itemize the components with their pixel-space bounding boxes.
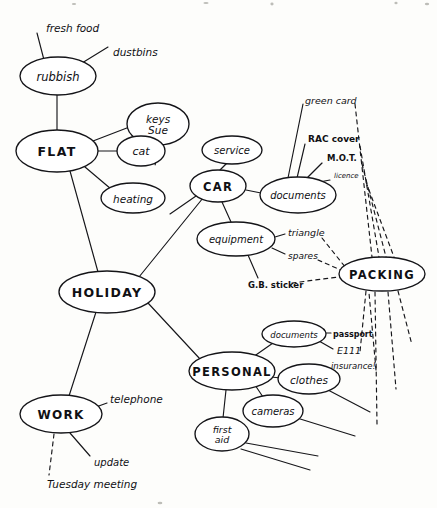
cardocs-to-green-card (288, 104, 303, 178)
node-label-holiday: HOLIDAY (72, 285, 143, 300)
leaf-label-spares[interactable]: spares (288, 251, 318, 261)
node-label-car-documents: documents (270, 190, 326, 201)
mindmap-canvas: HOLIDAYFLATrubbishkeysSuecatheatingCARse… (0, 0, 437, 508)
rubbish-to-dustbins (82, 47, 108, 63)
leaf-label-e111[interactable]: E111 (337, 345, 361, 356)
car-to-service (220, 164, 226, 170)
persdocs-to-e111 (319, 341, 333, 349)
node-first-aid[interactable]: firstaid (195, 417, 249, 451)
node-flat[interactable]: FLAT (16, 130, 98, 172)
node-label-cat: cat (132, 145, 150, 158)
node-work[interactable]: WORK (20, 395, 102, 433)
car-to-car-documents (246, 190, 261, 193)
node-label-flat: FLAT (38, 144, 77, 159)
node-label-keys-sue-line1: keys (146, 113, 171, 125)
cardocs-to-mot (306, 163, 322, 179)
rubbish-to-fresh-food (37, 33, 44, 60)
node-packing[interactable]: PACKING (339, 257, 425, 291)
node-label-keys-sue-line2: Sue (148, 124, 168, 136)
cameras-to-blank-1 (297, 418, 355, 436)
rac-cover-to-packing (360, 146, 379, 257)
mindmap-svg: HOLIDAYFLATrubbishkeysSuecatheatingCARse… (0, 0, 437, 508)
node-label-heating: heating (113, 193, 153, 205)
equipment-to-gb-sticker (248, 255, 258, 278)
node-car[interactable]: CAR (190, 170, 246, 202)
leaf-label-licence[interactable]: licence (334, 172, 359, 180)
leaf-label-update[interactable]: update (94, 457, 129, 468)
packing-down-4 (398, 291, 412, 345)
spares-to-packing (318, 260, 343, 271)
node-equipment[interactable]: equipment (197, 222, 275, 256)
node-personal[interactable]: PERSONAL (189, 352, 275, 390)
nodes-group: HOLIDAYFLATrubbishkeysSuecatheatingCARse… (16, 57, 425, 451)
holiday-to-work (69, 312, 96, 396)
leaf-label-fresh-food[interactable]: fresh food (46, 22, 99, 34)
node-label-cameras: cameras (252, 406, 295, 417)
leaf-label-mot[interactable]: M.O.T. (327, 153, 357, 163)
node-label-first-aid-line2: aid (215, 434, 230, 445)
packing-down-3 (388, 292, 396, 389)
node-label-service: service (214, 145, 250, 156)
green-card-to-packing (355, 104, 372, 257)
work-to-tuesday-meeting (49, 434, 54, 475)
flat-to-holiday (70, 171, 98, 272)
holiday-to-personal (148, 303, 200, 359)
node-label-packing: PACKING (349, 268, 415, 282)
node-cameras[interactable]: cameras (243, 395, 303, 427)
leaf-label-gb-sticker[interactable]: G.B. sticker (248, 280, 304, 290)
node-car-documents[interactable]: documents (260, 177, 336, 213)
packing-down-1 (360, 291, 366, 352)
node-pers-documents[interactable]: documents (262, 321, 326, 347)
work-to-update (70, 433, 90, 456)
node-label-clothes: clothes (290, 374, 328, 386)
flat-to-heating (85, 167, 111, 189)
equipment-to-triangle (275, 234, 285, 237)
node-holiday[interactable]: HOLIDAY (59, 271, 155, 313)
leaf-label-green-card[interactable]: green card (305, 95, 358, 106)
leaf-label-triangle[interactable]: triangle (288, 227, 325, 238)
leaf-label-tuesday-meeting[interactable]: Tuesday meeting (47, 478, 137, 490)
car-to-equipment (222, 202, 231, 222)
clothes-to-blank-1 (328, 390, 370, 412)
licence-to-packing (366, 182, 394, 257)
leaf-label-insurance[interactable]: insurance! (331, 361, 376, 371)
equipment-to-spares (272, 248, 285, 254)
node-label-car: CAR (203, 180, 233, 194)
node-label-personal: PERSONAL (192, 365, 271, 379)
node-label-rubbish: rubbish (36, 70, 79, 84)
leaf-label-passport[interactable]: passport (333, 330, 373, 339)
node-cat[interactable]: cat (117, 136, 165, 166)
leaf-label-telephone[interactable]: telephone (110, 393, 163, 405)
leaf-label-rac-cover[interactable]: RAC cover (308, 134, 360, 144)
node-heating[interactable]: heating (101, 183, 165, 213)
node-label-pers-documents: documents (270, 330, 318, 340)
node-label-work: WORK (37, 408, 84, 422)
personal-to-first-aid (223, 390, 226, 418)
node-rubbish[interactable]: rubbish (20, 57, 96, 95)
leaf-label-dustbins[interactable]: dustbins (113, 46, 158, 58)
node-service[interactable]: service (202, 136, 262, 164)
node-label-equipment: equipment (209, 234, 264, 245)
cardocs-to-rac-cover (297, 144, 305, 178)
